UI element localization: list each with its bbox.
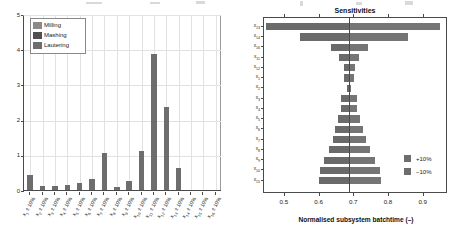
left-chart-bar <box>65 185 70 190</box>
tornado-bar-plus10 <box>349 126 363 133</box>
tornado-bar-minus10 <box>319 177 350 184</box>
tornado-ytick <box>261 87 264 88</box>
tornado-ytick-label: x11 <box>244 54 260 61</box>
left-chart-bar <box>139 151 144 190</box>
tornado-ytick-label: x3 <box>244 95 260 102</box>
tornado-bar-plus10 <box>349 23 440 30</box>
left-ytick-label: 5 <box>10 12 20 18</box>
tornado-bar-plus10 <box>349 95 357 102</box>
tornado-bar-plus10 <box>349 177 381 184</box>
left-ytick-label: 3 <box>10 82 20 88</box>
left-xtick <box>29 192 30 195</box>
tornado-xtick-top <box>319 14 320 17</box>
tornado-bar-minus10 <box>335 126 349 133</box>
left-xtick <box>79 192 80 195</box>
left-chart-bar <box>52 186 57 190</box>
tornado-ytick <box>261 180 264 181</box>
tornado-ytick <box>261 57 264 58</box>
tornado-ytick-label: x10 <box>244 166 260 173</box>
legend-swatch-mashing <box>33 32 42 39</box>
plot-right-edge <box>220 15 221 190</box>
legend-item: Milling <box>33 21 83 30</box>
left-gridline-v <box>191 15 192 190</box>
left-chart-plot-area: Milling Mashing Lautering <box>23 15 221 191</box>
left-chart-bar <box>164 107 169 190</box>
tornado-bar-minus10 <box>324 157 349 164</box>
legend-swatch-lautering <box>33 42 42 49</box>
tornado-ytick <box>261 169 264 170</box>
left-chart-bar <box>176 168 181 190</box>
tornado-xtick-label: 0.9 <box>412 198 434 205</box>
left-chart-bar <box>102 153 107 190</box>
left-gridline-v <box>92 15 93 190</box>
left-xtick <box>141 192 142 195</box>
left-ytick-label: 1 <box>10 152 20 158</box>
tornado-chart-title: Sensitivities <box>263 7 447 14</box>
tornado-bar-minus10 <box>320 167 350 174</box>
left-xtick <box>178 192 179 195</box>
tornado-bar-plus10 <box>349 157 375 164</box>
tornado-bar-plus10 <box>349 146 370 153</box>
left-chart-bar <box>126 181 131 190</box>
legend-label-mashing: Mashing <box>44 32 67 39</box>
left-xtick <box>190 192 191 195</box>
tornado-ytick-label: x7 <box>244 136 260 143</box>
left-gridline-v <box>203 15 204 190</box>
left-xtick <box>54 192 55 195</box>
left-xtick <box>202 192 203 195</box>
tornado-ytick <box>261 139 264 140</box>
tornado-ytick-label: x12 <box>244 64 260 71</box>
tornado-baseline <box>349 18 350 192</box>
tornado-bar-minus10 <box>333 136 349 143</box>
left-ytick <box>21 191 24 192</box>
tornado-ytick <box>261 36 264 37</box>
left-ytick-label: 4 <box>10 47 20 53</box>
tornado-bar-plus10 <box>349 44 368 51</box>
tornado-sensitivities-chart: Sensitivities +10% −10% x13x14x16x11x12x… <box>236 0 467 239</box>
tornado-ytick-label: x15 <box>244 177 260 184</box>
left-chart-bar <box>151 54 156 190</box>
tornado-xtick-top <box>353 14 354 17</box>
tornado-xtick <box>388 193 389 196</box>
tornado-bar-minus10 <box>329 146 349 153</box>
left-xtick <box>91 192 92 195</box>
tornado-plot-area: +10% −10% <box>263 17 447 193</box>
tornado-xtick <box>319 193 320 196</box>
tornado-ytick-label: x1 <box>244 74 260 81</box>
tornado-ytick-label: x2 <box>244 84 260 91</box>
legend-swatch-plus10 <box>404 155 411 162</box>
left-gridline-v <box>129 15 130 190</box>
left-xtick <box>42 192 43 195</box>
tornado-xtick <box>353 193 354 196</box>
tornado-xtick-label: 0.6 <box>308 198 330 205</box>
legend-label-lautering: Lautering <box>44 42 69 49</box>
tornado-bar-minus10 <box>339 54 349 61</box>
tornado-legend: +10% −10% <box>404 152 432 178</box>
left-chart-bar <box>89 179 94 190</box>
tornado-ytick <box>261 128 264 129</box>
tornado-ytick <box>261 108 264 109</box>
left-gridline-v <box>216 15 217 190</box>
tornado-ytick-label: x5 <box>244 115 260 122</box>
tornado-xtick <box>423 193 424 196</box>
tornado-xlabel: Normalised subsystem batchtime (–) <box>256 216 456 223</box>
left-xtick <box>116 192 117 195</box>
left-ytick-label: 2 <box>10 117 20 123</box>
tornado-xtick-label: 0.8 <box>377 198 399 205</box>
tornado-bar-minus10 <box>300 33 349 40</box>
left-chart-bar <box>27 175 32 190</box>
tornado-bar-plus10 <box>349 54 359 61</box>
tornado-ytick <box>261 159 264 160</box>
left-chart-bar <box>40 186 45 190</box>
tornado-ytick-label: x14 <box>244 33 260 40</box>
tornado-xtick-top <box>388 14 389 17</box>
tornado-bar-plus10 <box>349 136 366 143</box>
legend-swatch-milling <box>33 22 42 29</box>
tornado-ytick <box>261 46 264 47</box>
legend-item: +10% <box>404 152 432 165</box>
tornado-ytick-label: x16 <box>244 43 260 50</box>
legend-label-plus10: +10% <box>416 156 432 162</box>
left-gridline-v <box>179 15 180 190</box>
tornado-ytick-label: x9 <box>244 156 260 163</box>
tornado-xtick-top <box>284 14 285 17</box>
